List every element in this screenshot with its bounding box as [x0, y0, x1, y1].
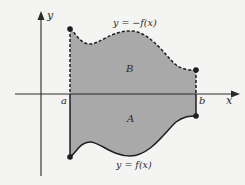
x-axis-label: x — [226, 94, 233, 107]
y-axis-label: y — [46, 9, 54, 22]
endpoint-lower-left — [67, 154, 73, 160]
region-b-label: B — [125, 63, 133, 74]
y-axis-arrow-icon — [38, 11, 45, 20]
endpoint-upper-left — [67, 26, 73, 32]
bound-b-label: b — [199, 95, 205, 106]
bound-a-label: a — [61, 95, 67, 106]
area-between-curves-diagram: y x a b y = −f(x) y = f(x) B A — [0, 0, 245, 185]
upper-curve-label: y = −f(x) — [112, 17, 157, 28]
region-a-label: A — [126, 113, 134, 124]
endpoint-lower-right — [193, 113, 199, 119]
endpoint-upper-right — [193, 67, 199, 73]
x-axis-arrow-icon — [231, 91, 240, 98]
lower-curve-label: y = f(x) — [115, 159, 152, 170]
shaded-region — [70, 29, 196, 157]
